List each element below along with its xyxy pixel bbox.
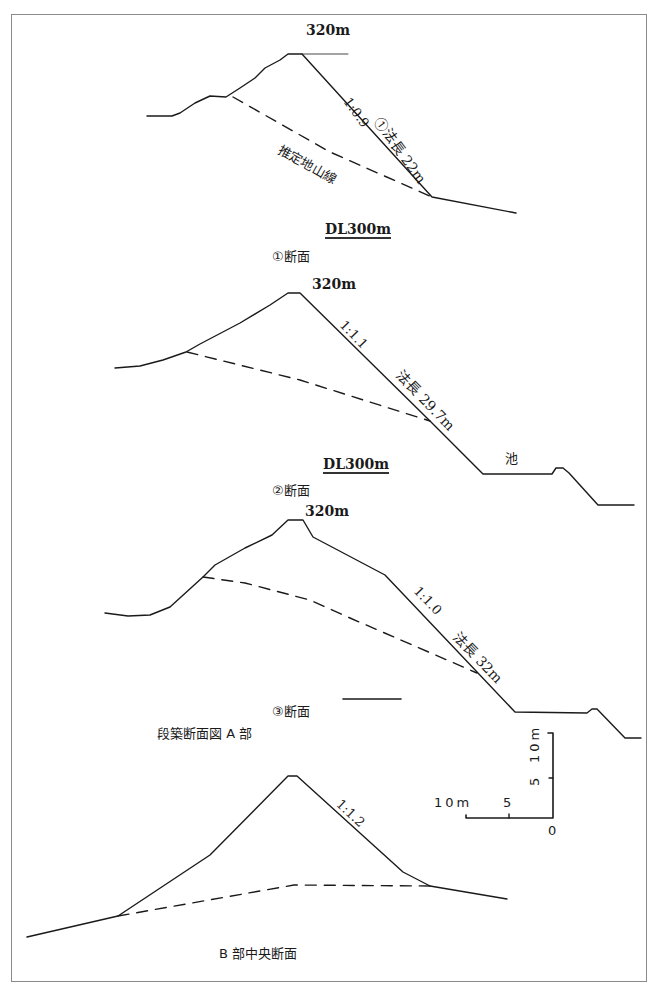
cross-section-drawing	[0, 0, 657, 992]
section-1-datum-label: DL300m	[325, 222, 391, 239]
section-2-caption: ②断面	[272, 484, 310, 497]
section-2-estimated-ground-line	[187, 352, 430, 421]
section-3-crest-label: 320m	[305, 504, 349, 518]
pond-label: 池	[505, 452, 518, 465]
section-1-ground-profile	[147, 54, 516, 213]
scale-label-v-5: 5	[528, 778, 541, 786]
section-3-caption: ③断面	[272, 705, 310, 718]
scale-label-0: 0	[548, 824, 556, 837]
figure-caption-b: B 部中央断面	[219, 947, 297, 960]
scale-label-10m: 10m	[434, 796, 472, 809]
section-1-caption: ①断面	[272, 250, 310, 263]
scale-label-v-10m: 10m	[528, 725, 541, 763]
section-b-estimated-ground-line	[118, 885, 430, 916]
scale-label-5: 5	[503, 796, 511, 809]
section-2-datum-label: DL300m	[323, 457, 389, 474]
section-3-estimated-ground-line	[203, 577, 477, 673]
section-3-ground-profile	[105, 520, 641, 738]
figure-caption-a: 段築断面図 A 部	[157, 727, 252, 740]
section-2-crest-label: 320m	[312, 277, 356, 291]
section-1-crest-label: 320m	[306, 23, 350, 37]
